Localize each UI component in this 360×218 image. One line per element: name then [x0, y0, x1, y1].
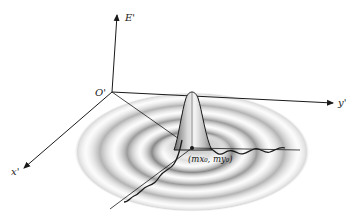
x-axis-label: x'	[11, 166, 19, 177]
center-point	[190, 146, 194, 150]
diffraction-pattern-diagram: E' y' x' O' (mx₀, my₀)	[0, 0, 360, 218]
e-axis	[112, 15, 117, 92]
e-axis-label: E'	[124, 12, 135, 23]
y-axis-label: y'	[337, 97, 346, 108]
origin-label: O'	[95, 87, 106, 98]
center-point-label: (mx₀, my₀)	[188, 154, 233, 164]
